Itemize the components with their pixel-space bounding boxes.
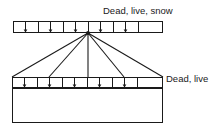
truss-apex-node — [86, 31, 90, 35]
truss-load-diagram: Dead, live, snow Dead, live — [0, 0, 223, 130]
web-member-4 — [88, 33, 124, 77]
top-load-label: Dead, live, snow — [103, 5, 173, 16]
web-member-5 — [88, 33, 163, 77]
lower-load-label: Dead, live — [166, 73, 208, 84]
lower-chord-group — [13, 77, 163, 88]
web-member-2 — [49, 33, 88, 77]
web-member-1 — [12, 33, 88, 77]
truss-web-members — [12, 33, 163, 77]
supporting-wall-box — [13, 89, 163, 123]
diagram-canvas: Dead, live, snow Dead, live — [0, 0, 223, 130]
